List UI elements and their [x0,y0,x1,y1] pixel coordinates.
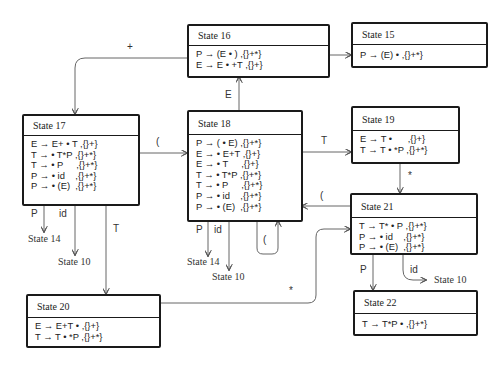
edge-label-s16-s17: + [127,41,133,52]
lr-item: E → E • +T ,{}+} [196,60,328,71]
state-items: E → T • ,{}+} T → T • *P ,{}+*} [353,131,458,155]
state-18[interactable]: State 18 P → ( • E) ,{}+*} E → • E+T ,{}… [187,110,303,222]
edge-label-s21-p: P [360,264,367,275]
state-items: T → T* • P ,{}+*} P → • id ,{}+*} P → • … [352,218,476,253]
state-title: State 17 [24,116,138,136]
state-title: State 21 [352,195,476,218]
state-19[interactable]: State 19 E → T • ,{}+} T → T • *P ,{}+*} [351,106,460,164]
state-title: State 16 [189,26,328,46]
state-15[interactable]: State 15 P → (E) • ,{}+*} [351,22,488,68]
edge-label-s18-s16: E [225,89,232,100]
state-16[interactable]: State 16 P → (E • ) ,{}+*} E → E • +T ,{… [187,24,330,78]
state-items: E → E+ • T ,{}+} T → • T*P ,{}+*} T → • … [24,136,138,192]
edge-label-s17-t: T [113,223,119,234]
target-state-14[interactable]: State 14 [187,256,220,267]
target-state-10[interactable]: State 10 [58,256,91,267]
edge-s16-s17 [75,58,187,114]
state-items: P → (E) • ,{}+*} [353,45,486,61]
edge-s18-self [257,221,278,254]
edge-label-s21-id: id [410,264,418,275]
lr-item: P → • (E) ,{}+*} [196,202,301,213]
target-state-10[interactable]: State 10 [434,274,467,285]
state-items: P → ( • E) ,{}+*} E → • E+T ,{}+} E → • … [189,135,301,212]
state-17[interactable]: State 17 E → E+ • T ,{}+} T → • T*P ,{}+… [22,114,140,206]
edge-label-s18-s19: T [321,135,327,146]
lr-item: T → T*P • ,{}+*} [362,319,476,330]
lr-item: E → E+ • T ,{}+} [31,139,138,150]
lr-state-diagram: ) + E ( T ( * ( P id T P id * P id State… [0,0,493,369]
lr-item: P → (E) • ,{}+*} [360,50,486,61]
state-20[interactable]: State 20 E → E+T • ,{}+} T → T • *P ,{}+… [26,294,161,348]
lr-item: E → T • ,{}+} [360,134,458,145]
lr-item: E → E+T • ,{}+} [35,321,159,332]
edge-label-s17-id: id [59,208,67,219]
state-title: State 22 [355,292,476,314]
edge-label-s17-p: P [31,208,38,219]
lr-item: P → • (E) ,{}+*} [359,242,476,253]
edge-label-s18-id: id [214,224,222,235]
state-items: P → (E • ) ,{}+*} E → E • +T ,{}+} [189,46,328,70]
target-state-10[interactable]: State 10 [212,271,245,282]
lr-item: T → T* • P ,{}+*} [359,221,476,232]
edge-label-s18-self: ( [263,234,266,245]
edge-label-s19-s21: * [408,170,412,181]
lr-item: P → ( • E) ,{}+*} [196,138,301,149]
edge-label-s20-s21: * [289,285,293,296]
state-22[interactable]: State 22 T → T*P • ,{}+*} [353,290,478,336]
state-title: State 18 [189,112,301,135]
edge-label-s17-s18: ( [156,136,159,147]
target-state-14[interactable]: State 14 [28,233,61,244]
state-items: E → E+T • ,{}+} T → T • *P ,{}+*} [28,318,159,342]
lr-item: P → • id ,{}+*} [196,191,301,202]
state-items: T → T*P • ,{}+*} [355,314,476,330]
lr-item: P → (E • ) ,{}+*} [196,49,328,60]
edge-label-s18-p: P [196,224,203,235]
state-21[interactable]: State 21 T → T* • P ,{}+*} P → • id ,{}+… [350,193,478,255]
lr-item: T → T • *P ,{}+*} [35,332,159,343]
state-title: State 15 [353,24,486,45]
lr-item: T → T • *P ,{}+*} [360,145,458,156]
state-title: State 19 [353,108,458,131]
lr-item: P → • (E) ,{}+*} [31,181,138,192]
state-title: State 20 [28,296,159,318]
edge-label-s21-s18: ( [320,190,323,201]
